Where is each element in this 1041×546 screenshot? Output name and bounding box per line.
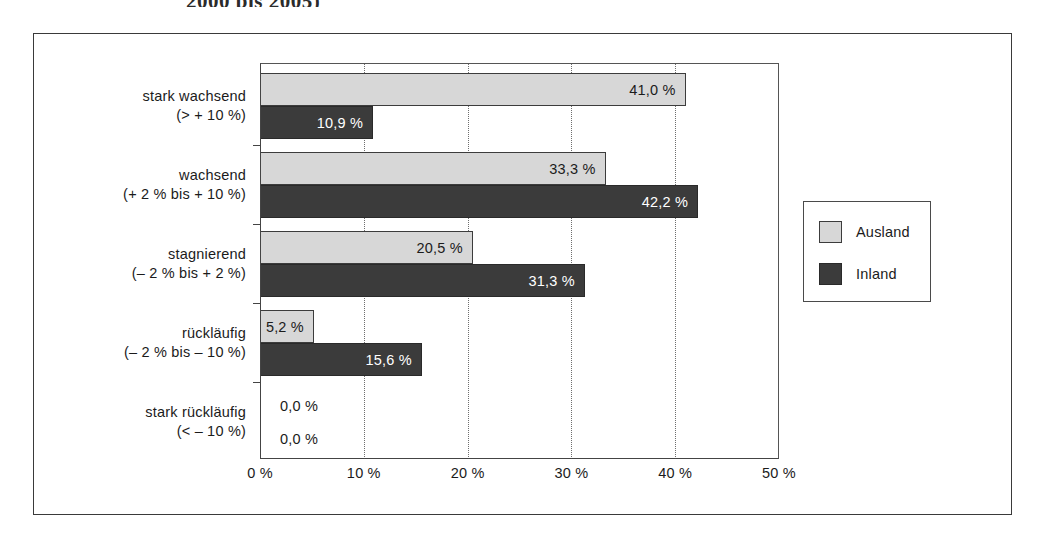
category-label-line1: stagnierend xyxy=(168,246,246,262)
bar-inland: 42,2 % xyxy=(260,185,698,218)
legend-item-inland[interactable]: Inland xyxy=(819,263,897,285)
bar-value-label: 10,9 % xyxy=(317,115,372,131)
y-axis-tick xyxy=(253,303,260,304)
bar-value-label: 0,0 % xyxy=(260,431,318,447)
category-label-line2: (– 2 % bis – 10 %) xyxy=(36,343,246,362)
category-label: stagnierend(– 2 % bis + 2 %) xyxy=(36,245,246,283)
x-axis-tick-label: 0 % xyxy=(247,465,273,481)
legend-label: Ausland xyxy=(856,224,910,240)
bar-group: 41,0 %10,9 % xyxy=(260,73,779,139)
category-label: stark wachsend(> + 10 %) xyxy=(36,87,246,125)
y-axis-tick xyxy=(253,224,260,225)
x-axis-tick-label: 40 % xyxy=(658,465,692,481)
bar-inland-zero: 0,0 % xyxy=(260,422,318,455)
bar-group: 20,5 %31,3 % xyxy=(260,231,779,297)
bar-group: 0,0 %0,0 % xyxy=(260,389,779,455)
x-axis-tick-label: 10 % xyxy=(347,465,381,481)
category-label-line2: (+ 2 % bis + 10 %) xyxy=(36,185,246,204)
figure-frame: 41,0 %10,9 %33,3 %42,2 %20,5 %31,3 %5,2 … xyxy=(33,33,1012,515)
category-label-line2: (> + 10 %) xyxy=(36,106,246,125)
category-label-line1: stark rückläufig xyxy=(145,404,246,420)
bar-group: 5,2 %15,6 % xyxy=(260,310,779,376)
category-label: rückläufig(– 2 % bis – 10 %) xyxy=(36,324,246,362)
bar-value-label: 33,3 % xyxy=(549,161,604,177)
legend-item-ausland[interactable]: Ausland xyxy=(819,221,910,243)
bar-ausland: 20,5 % xyxy=(260,231,473,264)
category-label-line1: rückläufig xyxy=(182,325,246,341)
bar-value-label: 15,6 % xyxy=(366,352,421,368)
bar-inland: 10,9 % xyxy=(260,106,373,139)
bar-value-label: 5,2 % xyxy=(266,319,313,335)
category-label: wachsend(+ 2 % bis + 10 %) xyxy=(36,166,246,204)
y-axis-tick xyxy=(253,145,260,146)
bar-value-label: 20,5 % xyxy=(416,240,471,256)
bar-group: 33,3 %42,2 % xyxy=(260,152,779,218)
category-label-line1: stark wachsend xyxy=(142,88,246,104)
y-axis-tick xyxy=(253,382,260,383)
plot-area: 41,0 %10,9 %33,3 %42,2 %20,5 %31,3 %5,2 … xyxy=(260,63,779,459)
bar-value-label: 0,0 % xyxy=(260,398,318,414)
bar-ausland: 41,0 % xyxy=(260,73,686,106)
bar-inland: 15,6 % xyxy=(260,343,422,376)
bar-ausland: 33,3 % xyxy=(260,152,606,185)
category-label-line2: (< – 10 %) xyxy=(36,422,246,441)
x-axis-tick-label: 30 % xyxy=(554,465,588,481)
legend-swatch-icon xyxy=(819,263,842,285)
figure-title-remnant: 2000 bis 2005) xyxy=(186,0,446,7)
category-label: stark rückläufig(< – 10 %) xyxy=(36,403,246,441)
x-axis-tick-label: 50 % xyxy=(762,465,796,481)
legend: AuslandInland xyxy=(803,201,931,302)
bar-value-label: 42,2 % xyxy=(642,194,697,210)
bar-value-label: 31,3 % xyxy=(529,273,584,289)
bar-ausland: 5,2 % xyxy=(260,310,314,343)
category-label-line2: (– 2 % bis + 2 %) xyxy=(36,264,246,283)
category-label-line1: wachsend xyxy=(179,167,246,183)
bar-inland: 31,3 % xyxy=(260,264,585,297)
bar-value-label: 41,0 % xyxy=(629,82,684,98)
legend-swatch-icon xyxy=(819,221,842,243)
x-axis-tick-label: 20 % xyxy=(451,465,485,481)
bar-ausland-zero: 0,0 % xyxy=(260,389,318,422)
legend-label: Inland xyxy=(856,266,897,282)
